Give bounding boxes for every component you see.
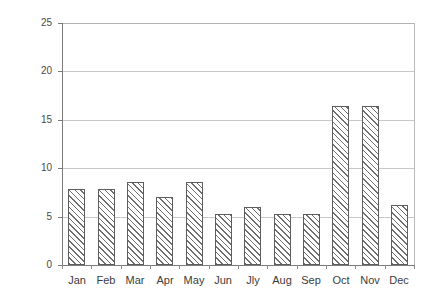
y-tick-label-wrap: 10 — [22, 168, 52, 169]
x-tick-nov — [355, 265, 356, 269]
y-tick-label-wrap: 0 — [22, 265, 52, 266]
x-tick-may — [179, 265, 180, 269]
bar-jly[interactable] — [244, 207, 261, 265]
gridline-25 — [62, 23, 414, 24]
y-tick-label-wrap: 20 — [22, 71, 52, 72]
x-tick-mar — [121, 265, 122, 269]
y-tick-label-wrap: 5 — [22, 217, 52, 218]
bar-dec[interactable] — [391, 205, 408, 265]
bar-oct[interactable] — [332, 106, 349, 265]
bar-sep[interactable] — [303, 214, 320, 265]
x-tick-apr — [150, 265, 151, 269]
bar-nov[interactable] — [362, 106, 379, 265]
bar-chart: Percentage share 2520151050 JanFebMarApr… — [0, 0, 432, 308]
x-tick-jan — [62, 265, 63, 269]
y-tick-label-wrap: 25 — [22, 23, 52, 24]
x-tick-sep — [297, 265, 298, 269]
x-tick-oct — [326, 265, 327, 269]
y-axis-label: 15 — [26, 115, 52, 125]
x-tick-dec — [385, 265, 386, 269]
bar-jun[interactable] — [215, 214, 232, 265]
bar-aug[interactable] — [274, 214, 291, 265]
bar-feb[interactable] — [98, 189, 115, 265]
x-tick-end — [414, 265, 415, 269]
plot-area — [62, 23, 414, 265]
y-axis-label: 20 — [26, 66, 52, 76]
bar-mar[interactable] — [127, 182, 144, 265]
y-axis-label: 25 — [26, 18, 52, 28]
y-axis-label: 0 — [26, 260, 52, 270]
bar-may[interactable] — [186, 182, 203, 265]
x-tick-aug — [267, 265, 268, 269]
plot-right-border — [414, 23, 415, 266]
x-axis-label-dec: Dec — [376, 274, 422, 286]
x-tick-jun — [209, 265, 210, 269]
x-tick-jly — [238, 265, 239, 269]
gridline-20 — [62, 71, 414, 72]
bar-apr[interactable] — [156, 197, 173, 265]
y-axis-label: 5 — [26, 212, 52, 222]
x-tick-feb — [91, 265, 92, 269]
y-axis-line — [62, 23, 63, 266]
bar-jan[interactable] — [68, 189, 85, 265]
y-tick-label-wrap: 15 — [22, 120, 52, 121]
y-axis-label: 10 — [26, 163, 52, 173]
